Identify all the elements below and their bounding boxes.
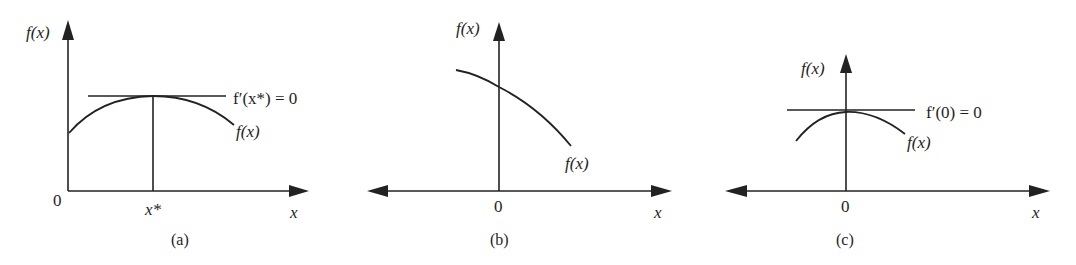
- x-axis-label: x: [1031, 203, 1040, 222]
- origin-label: 0: [841, 197, 850, 216]
- tick-label: x*: [144, 200, 162, 219]
- x-axis-left-arrow-icon: [367, 185, 388, 197]
- caption: (a): [171, 231, 189, 249]
- panel-a: f(x) f′(x*) = 0 f(x) 0 x* x (a): [26, 20, 309, 249]
- tangent-label: f′(x*) = 0: [233, 89, 297, 108]
- x-axis-arrow-icon: [289, 185, 309, 197]
- x-axis-right-arrow-icon: [651, 185, 672, 197]
- y-axis-arrow-icon: [62, 20, 74, 40]
- curve-label: f(x): [565, 154, 589, 173]
- panel-c: f(x) f′(0) = 0 f(x) 0 x (c): [725, 54, 1050, 249]
- y-axis-label: f(x): [26, 23, 50, 42]
- x-axis-left-arrow-icon: [725, 185, 747, 197]
- tangent-label: f′(0) = 0: [926, 103, 982, 122]
- y-axis-label: f(x): [456, 19, 480, 38]
- y-axis-arrow-icon: [493, 22, 505, 41]
- figure: f(x) f′(x*) = 0 f(x) 0 x* x (a) f(x) f(x…: [0, 0, 1076, 265]
- curve-label: f(x): [907, 133, 931, 152]
- y-axis-label: f(x): [801, 59, 825, 78]
- origin-label: 0: [494, 197, 503, 216]
- curve-label: f(x): [236, 122, 260, 141]
- x-axis-label: x: [289, 203, 298, 222]
- curve: [456, 70, 571, 146]
- x-axis-right-arrow-icon: [1029, 185, 1050, 197]
- curve: [69, 96, 234, 133]
- caption: (b): [490, 231, 509, 249]
- origin-label: 0: [53, 191, 62, 210]
- panel-b: f(x) f(x) 0 x (b): [367, 19, 672, 249]
- y-axis-arrow-icon: [840, 54, 852, 73]
- x-axis-label: x: [653, 203, 662, 222]
- curve: [796, 112, 905, 141]
- caption: (c): [836, 231, 854, 249]
